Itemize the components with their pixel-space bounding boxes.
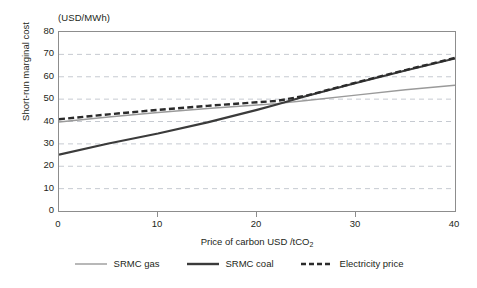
series-lines: [59, 58, 455, 155]
y-tick-label: 0: [14, 205, 54, 215]
gridlines: [59, 54, 455, 188]
legend-item-electricity-price[interactable]: Electricity price: [300, 258, 404, 269]
y-tick-label: 50: [14, 93, 54, 103]
legend-swatch-icon: [74, 260, 108, 268]
y-tick-label: 80: [14, 26, 54, 36]
x-tick-mark: [157, 212, 158, 217]
series-line-srmc-gas: [59, 85, 455, 122]
y-tick-label: 10: [14, 183, 54, 193]
x-tick-label: 0: [43, 218, 73, 229]
legend-swatch-icon: [186, 260, 220, 268]
legend-label: SRMC gas: [114, 258, 160, 269]
y-axis-tick-labels: 01020304050607080: [10, 0, 54, 288]
chart-figure: (USD/MWh) Short-run marginal cost 010203…: [0, 0, 477, 288]
x-tick-label: 20: [241, 218, 271, 229]
legend-label: Electricity price: [340, 258, 404, 269]
x-axis-title-text: Price of carbon USD /tCO: [201, 236, 310, 247]
plot-svg: [59, 32, 455, 211]
y-axis-unit-caption: (USD/MWh): [58, 12, 110, 23]
x-tick-label: 10: [142, 218, 172, 229]
chart-legend: SRMC gasSRMC coalElectricity price: [0, 258, 477, 269]
legend-item-srmc-gas[interactable]: SRMC gas: [74, 258, 160, 269]
x-axis-title-subscript: 2: [309, 241, 313, 248]
plot-area: [58, 31, 456, 212]
x-tick-label: 40: [439, 218, 469, 229]
x-tick-mark: [256, 212, 257, 217]
x-axis-title: Price of carbon USD /tCO2: [58, 236, 456, 247]
y-tick-label: 70: [14, 48, 54, 58]
x-tick-mark: [355, 212, 356, 217]
legend-item-srmc-coal[interactable]: SRMC coal: [186, 258, 274, 269]
x-tick-label: 30: [340, 218, 370, 229]
y-tick-label: 20: [14, 160, 54, 170]
y-tick-label: 30: [14, 138, 54, 148]
legend-label: SRMC coal: [226, 258, 274, 269]
y-tick-label: 60: [14, 71, 54, 81]
legend-swatch-icon: [300, 260, 334, 268]
y-tick-label: 40: [14, 116, 54, 126]
